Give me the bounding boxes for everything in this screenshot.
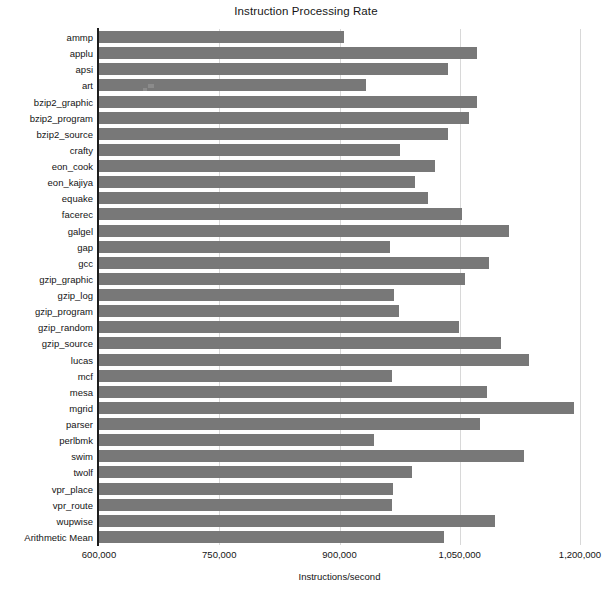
bar-row: vpr_route — [0, 497, 612, 513]
bar-gzip-random — [99, 321, 459, 333]
bar-row: art — [0, 77, 612, 93]
bar-mgrid — [99, 402, 574, 414]
bar-row: mcf — [0, 368, 612, 384]
bar-art — [99, 79, 366, 91]
bar-rows: ammpappluapsiartbzip2_graphicbzip2_progr… — [0, 29, 612, 545]
bar-vpr-route — [99, 499, 392, 511]
bar-row: mgrid — [0, 400, 612, 416]
category-label-bzip2-graphic: bzip2_graphic — [34, 96, 93, 107]
bar-bzip2-program — [99, 112, 469, 124]
bar-eon-cook — [99, 160, 435, 172]
category-label-bzip2-program: bzip2_program — [30, 112, 93, 123]
bar-galgel — [99, 225, 509, 237]
bar-lucas — [99, 354, 529, 366]
category-label-arithmetic-mean: Arithmetic Mean — [24, 531, 93, 542]
bar-row: mesa — [0, 384, 612, 400]
category-label-equake: equake — [62, 193, 93, 204]
bar-row: wupwise — [0, 513, 612, 529]
category-label-gzip-graphic: gzip_graphic — [39, 273, 93, 284]
bar-equake — [99, 192, 428, 204]
category-label-vpr-place: vpr_place — [52, 483, 93, 494]
bar-gap — [99, 241, 390, 253]
bar-row: lucas — [0, 352, 612, 368]
bar-row: bzip2_program — [0, 110, 612, 126]
bar-row: applu — [0, 45, 612, 61]
bar-row: bzip2_source — [0, 126, 612, 142]
x-tick-label: 1,050,000 — [439, 549, 481, 560]
category-label-gap: gap — [77, 241, 93, 252]
category-label-mesa: mesa — [70, 386, 93, 397]
bar-vpr-place — [99, 483, 393, 495]
bar-mesa — [99, 386, 487, 398]
x-axis-tick-labels: 600,000750,000900,0001,050,0001,200,000 — [0, 549, 612, 565]
category-label-crafty: crafty — [70, 144, 93, 155]
bar-twolf — [99, 466, 412, 478]
bar-row: eon_cook — [0, 158, 612, 174]
bar-applu — [99, 47, 477, 59]
category-label-eon-cook: eon_cook — [52, 161, 93, 172]
bar-bzip2-graphic — [99, 96, 477, 108]
bar-row: perlbmk — [0, 432, 612, 448]
category-label-perlbmk: perlbmk — [59, 435, 93, 446]
category-label-gzip-log: gzip_log — [58, 290, 93, 301]
category-label-gzip-random: gzip_random — [38, 322, 93, 333]
x-tick-label: 750,000 — [202, 549, 236, 560]
bar-gzip-graphic — [99, 273, 465, 285]
bar-row: gzip_graphic — [0, 271, 612, 287]
bar-row: gzip_random — [0, 319, 612, 335]
bar-parser — [99, 418, 480, 430]
category-label-eon-kajiya: eon_kajiya — [48, 177, 93, 188]
bar-eon-kajiya — [99, 176, 415, 188]
category-label-wupwise: wupwise — [57, 515, 93, 526]
category-label-art: art — [82, 80, 93, 91]
category-label-mgrid: mgrid — [69, 402, 93, 413]
category-label-gzip-program: gzip_program — [35, 306, 93, 317]
category-label-bzip2-source: bzip2_source — [36, 128, 93, 139]
bar-row: gcc — [0, 255, 612, 271]
category-label-apsi: apsi — [76, 64, 93, 75]
bar-gcc — [99, 257, 489, 269]
bar-row: crafty — [0, 142, 612, 158]
bar-row: equake — [0, 190, 612, 206]
x-tick-label: 1,200,000 — [559, 549, 601, 560]
bar-row: Arithmetic Mean — [0, 529, 612, 545]
scan-speck — [143, 88, 147, 91]
bar-crafty — [99, 144, 400, 156]
bar-row: gap — [0, 239, 612, 255]
category-label-ammp: ammp — [67, 32, 93, 43]
category-label-mcf: mcf — [78, 370, 93, 381]
bar-row: apsi — [0, 61, 612, 77]
category-label-lucas: lucas — [71, 354, 93, 365]
bar-gzip-log — [99, 289, 394, 301]
category-label-galgel: galgel — [68, 225, 93, 236]
x-axis-label: Instructions/second — [99, 571, 580, 582]
category-label-facerec: facerec — [62, 209, 93, 220]
bar-apsi — [99, 63, 448, 75]
bar-row: swim — [0, 448, 612, 464]
category-label-gzip-source: gzip_source — [42, 338, 93, 349]
category-label-twolf: twolf — [73, 467, 93, 478]
scan-speck — [148, 84, 154, 88]
category-label-swim: swim — [71, 451, 93, 462]
category-label-applu: applu — [70, 48, 93, 59]
bar-facerec — [99, 208, 462, 220]
bar-row: vpr_place — [0, 481, 612, 497]
bar-perlbmk — [99, 434, 374, 446]
chart-title: Instruction Processing Rate — [0, 5, 612, 17]
bar-mcf — [99, 370, 392, 382]
bar-row: bzip2_graphic — [0, 94, 612, 110]
bar-row: parser — [0, 416, 612, 432]
category-label-vpr-route: vpr_route — [53, 499, 93, 510]
bar-gzip-source — [99, 337, 501, 349]
bar-row: ammp — [0, 29, 612, 45]
category-label-parser: parser — [66, 419, 93, 430]
bar-row: gzip_program — [0, 303, 612, 319]
bar-arithmetic-mean — [99, 531, 444, 543]
bar-bzip2-source — [99, 128, 448, 140]
bar-row: gzip_log — [0, 287, 612, 303]
x-tick-label: 600,000 — [82, 549, 116, 560]
instruction-processing-rate-chart: Instruction Processing Rate ammpappluaps… — [0, 0, 612, 594]
category-label-gcc: gcc — [78, 257, 93, 268]
bar-row: eon_kajiya — [0, 174, 612, 190]
bar-gzip-program — [99, 305, 399, 317]
